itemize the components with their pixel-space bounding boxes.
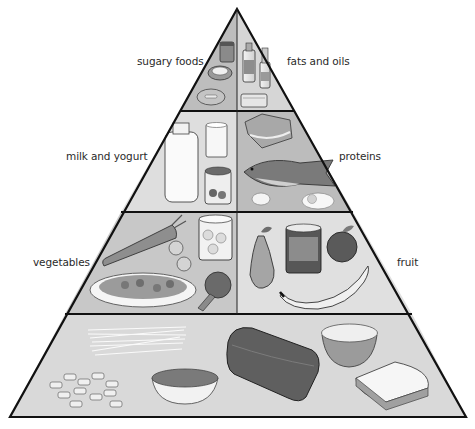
- tier-grains: [10, 314, 466, 417]
- label-proteins: proteins: [339, 150, 381, 162]
- label-vegetables: vegetables: [33, 256, 90, 268]
- canned-mushrooms-icon: [199, 215, 232, 260]
- salad-plate-icon: [90, 273, 196, 307]
- label-fruit: fruit: [397, 256, 418, 268]
- doughnut-icon: [197, 89, 225, 105]
- label-milk-and-yogurt: milk and yogurt: [66, 150, 147, 162]
- butter-icon: [241, 94, 267, 107]
- food-pyramid: [0, 0, 475, 429]
- canned-fruit-icon: [286, 224, 321, 273]
- jam-tart-icon: [208, 66, 232, 80]
- yogurt-pot-icon: [205, 167, 231, 204]
- sweets-jar-icon: [220, 42, 234, 62]
- label-sugary-foods: sugary foods: [137, 55, 204, 67]
- milk-bottle-icon: [165, 123, 198, 202]
- label-fats-and-oils: fats and oils: [287, 55, 350, 67]
- glass-of-milk-icon: [206, 123, 227, 158]
